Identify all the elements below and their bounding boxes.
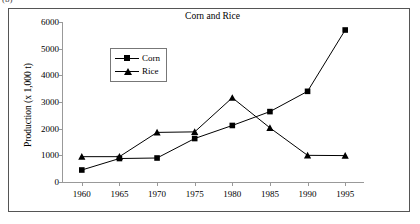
y-tick-label: 6000 xyxy=(41,18,59,27)
x-tick-label: 1980 xyxy=(223,190,241,199)
x-tick-mark xyxy=(308,182,309,186)
x-tick-label: 1985 xyxy=(261,190,279,199)
x-tick-mark xyxy=(119,182,120,186)
x-tick-mark xyxy=(195,182,196,186)
data-point-corn xyxy=(267,109,273,115)
x-tick-mark xyxy=(157,182,158,186)
series-layer xyxy=(63,22,364,182)
x-tick-label: 1970 xyxy=(148,190,166,199)
x-tick-mark xyxy=(232,182,233,186)
data-point-corn xyxy=(192,136,198,142)
y-axis-title: Production (x 1,000 t) xyxy=(23,30,33,180)
legend: Corn Rice xyxy=(110,48,167,82)
y-tick-label: 5000 xyxy=(41,44,59,53)
series-line-rice xyxy=(82,98,345,157)
x-tick-label: 1960 xyxy=(73,190,91,199)
plot-area: 0100020003000400050006000 19601965197019… xyxy=(62,22,364,183)
square-marker-icon xyxy=(124,55,130,61)
y-tick-label: 1000 xyxy=(41,151,59,160)
x-tick-mark xyxy=(345,182,346,186)
x-tick-mark xyxy=(270,182,271,186)
y-tick-mark xyxy=(59,22,63,23)
legend-label-rice: Rice xyxy=(142,66,159,77)
legend-swatch-corn xyxy=(115,53,139,64)
data-point-corn xyxy=(342,27,348,33)
y-tick-mark xyxy=(59,182,63,183)
data-point-corn xyxy=(154,155,160,161)
data-point-corn xyxy=(230,123,236,129)
data-point-corn xyxy=(305,89,311,95)
y-tick-mark xyxy=(59,102,63,103)
legend-swatch-rice xyxy=(115,66,139,77)
y-tick-mark xyxy=(59,129,63,130)
y-tick-label: 2000 xyxy=(41,124,59,133)
figure-container: (b) Corn and Rice Production (x 1,000 t)… xyxy=(0,0,420,224)
y-tick-label: 3000 xyxy=(41,98,59,107)
data-point-corn xyxy=(79,167,85,173)
legend-item-corn: Corn xyxy=(115,52,160,65)
y-tick-mark xyxy=(59,49,63,50)
legend-label-corn: Corn xyxy=(142,53,160,64)
x-tick-label: 1990 xyxy=(299,190,317,199)
data-point-rice xyxy=(229,94,236,101)
x-tick-label: 1965 xyxy=(110,190,128,199)
y-tick-label: 4000 xyxy=(41,71,59,80)
panel-label: (b) xyxy=(2,0,13,4)
y-tick-mark xyxy=(59,155,63,156)
y-tick-mark xyxy=(59,75,63,76)
legend-item-rice: Rice xyxy=(115,65,160,78)
triangle-marker-icon xyxy=(124,68,132,75)
x-tick-mark xyxy=(82,182,83,186)
x-tick-label: 1995 xyxy=(336,190,354,199)
x-tick-label: 1975 xyxy=(186,190,204,199)
chart-title: Corn and Rice xyxy=(62,11,363,22)
